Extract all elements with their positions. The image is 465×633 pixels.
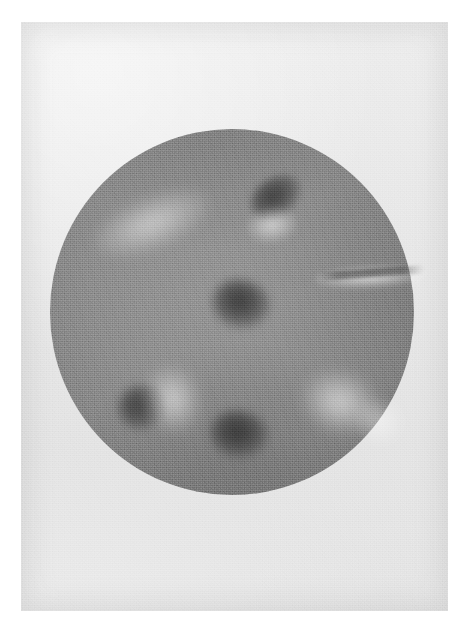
print-vignette	[21, 22, 448, 611]
figure-caption	[0, 0, 1, 1]
solar-photograph	[21, 22, 448, 611]
photographic-plate	[0, 0, 465, 633]
